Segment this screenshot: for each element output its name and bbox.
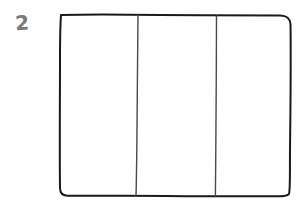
three-column-sketch [0, 0, 307, 206]
outer-rectangle [60, 14, 291, 196]
column-divider-2 [215, 16, 216, 196]
column-divider-1 [136, 15, 138, 196]
